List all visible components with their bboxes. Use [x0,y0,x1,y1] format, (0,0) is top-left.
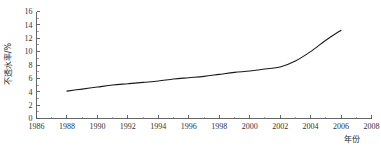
y-axis: 0246810121416 [25,7,41,123]
x-axis-tick-labels: 1986198819901992199419961998200020022004… [29,122,380,131]
y-tick-label: 14 [25,21,33,30]
data-series-line [67,30,341,91]
plot-area [67,30,341,91]
y-axis-tick-labels: 0246810121416 [25,7,33,123]
y-tick-label: 10 [25,47,33,56]
x-tick-label: 1992 [120,122,136,131]
y-tick-label: 8 [29,61,33,70]
y-tick-label: 6 [29,74,33,83]
x-tick-label: 1998 [211,122,227,131]
x-axis-title: 年份 [344,134,360,144]
x-tick-label: 2000 [242,122,258,131]
x-tick-label: 1994 [150,122,166,131]
y-tick-label: 12 [25,34,33,43]
x-tick-label: 1986 [29,122,45,131]
x-tick-label: 1996 [181,122,197,131]
x-tick-label: 1988 [59,122,75,131]
y-tick-label: 16 [25,7,33,16]
x-tick-label: 2002 [272,122,288,131]
line-chart-figure: 0246810121416 19861988199019921994199619… [0,0,381,153]
x-tick-label: 2008 [364,122,380,131]
x-axis: 1986198819901992199419961998200020022004… [29,115,380,131]
x-tick-label: 2004 [303,122,319,131]
y-axis-major-ticks [37,12,41,119]
y-tick-label: 2 [29,101,33,110]
x-tick-label: 2006 [333,122,349,131]
y-axis-title: 不透水率/% [3,42,13,85]
x-tick-label: 1990 [89,122,105,131]
chart-canvas: 0246810121416 19861988199019921994199619… [0,0,381,153]
y-tick-label: 4 [29,88,33,97]
